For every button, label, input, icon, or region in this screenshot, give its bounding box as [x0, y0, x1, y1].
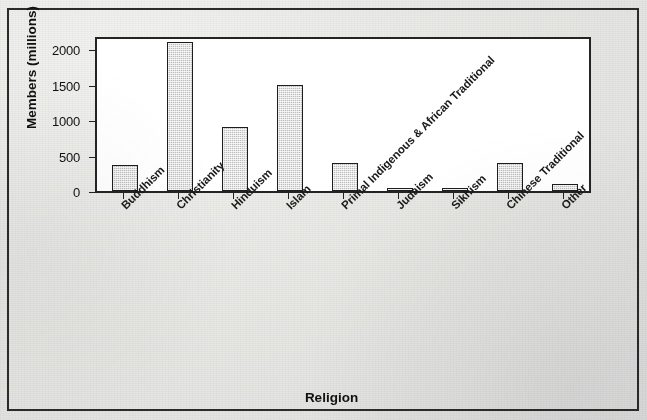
y-axis-tick-label: 2000: [0, 43, 86, 58]
plot-area: [95, 37, 591, 193]
y-axis-title: Members (millions): [24, 0, 39, 143]
bar: [167, 42, 193, 191]
y-axis-tick-label: 500: [0, 150, 86, 165]
y-axis-tick-labels: 0500100015002000: [0, 0, 86, 420]
x-axis-title-text: Religion: [305, 390, 358, 405]
bar: [277, 85, 303, 191]
y-axis-tick-label: 1000: [0, 114, 86, 129]
y-axis-tick: [89, 157, 96, 158]
x-axis-title: Religion: [0, 390, 647, 405]
y-axis-tick-label: 1500: [0, 79, 86, 94]
y-axis-tick: [89, 50, 96, 51]
bar: [222, 127, 248, 191]
y-axis-tick: [89, 121, 96, 122]
y-axis-tick: [89, 86, 96, 87]
y-axis-tick-label: 0: [0, 185, 86, 200]
bars-layer: [97, 39, 589, 191]
bar-chart: 0500100015002000 Members (millions) Budd…: [0, 0, 647, 420]
y-axis-tick: [89, 192, 96, 193]
